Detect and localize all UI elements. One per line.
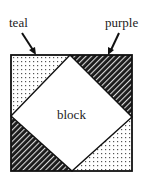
quilt-block-diagram: teal purple block [0,0,149,182]
purple-arrow [108,33,119,55]
block-label: block [57,107,86,122]
teal-arrow [22,33,36,55]
purple-label: purple [105,15,138,30]
teal-label: teal [9,15,28,30]
